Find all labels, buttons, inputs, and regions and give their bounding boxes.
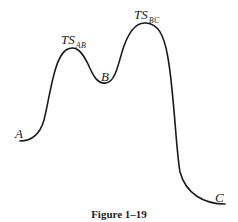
label-ts-bc: TSBC [134,8,160,21]
figure-caption: Figure 1–19 [0,208,238,220]
reaction-path [20,23,225,204]
label-ts-ab: TSAB [61,33,87,46]
label-ts-bc-main: TS [134,7,148,22]
energy-profile-curve [0,0,238,222]
label-a: A [15,127,23,140]
label-ts-ab-sub: AB [76,41,87,50]
label-c: C [215,191,224,204]
label-ts-ab-main: TS [61,32,75,47]
label-ts-bc-sub: BC [149,16,160,25]
label-b: B [101,70,109,83]
